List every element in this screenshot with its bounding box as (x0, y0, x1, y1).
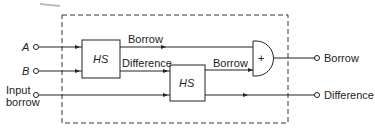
arrow-icon (243, 93, 248, 97)
label-hs1: HS (93, 53, 109, 65)
arrow-icon (248, 68, 253, 72)
output-difference-terminal (315, 93, 320, 98)
label-input-a: A (21, 41, 29, 53)
label-input-borrow-1: Input (6, 84, 30, 96)
full-subtractor-diagram: A B Input borrow HS HS + Borrow Differen… (0, 0, 375, 129)
input-b-terminal (34, 69, 39, 74)
arrow-icon (163, 93, 168, 97)
output-borrow-terminal (315, 56, 320, 61)
label-or-plus: + (258, 52, 264, 64)
label-input-borrow-2: borrow (6, 96, 40, 108)
label-output-difference: Difference (324, 89, 374, 101)
input-a-terminal (34, 45, 39, 50)
arrow-icon (75, 45, 80, 49)
arrow-icon (161, 45, 166, 49)
smudge-mark (40, 4, 60, 6)
label-hs2: HS (179, 77, 195, 89)
label-hs2-borrow: Borrow (213, 57, 248, 69)
label-hs1-difference: Difference (122, 57, 172, 69)
label-output-borrow: Borrow (324, 52, 359, 64)
arrow-icon (163, 69, 168, 73)
label-input-b: B (22, 65, 29, 77)
arrow-icon (75, 69, 80, 73)
label-hs1-borrow: Borrow (128, 33, 163, 45)
